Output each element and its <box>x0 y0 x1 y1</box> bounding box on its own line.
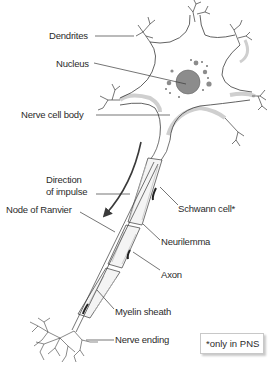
label-schwann-cell: Schwann cell* <box>178 203 235 214</box>
label-dendrites: Dendrites <box>49 30 88 41</box>
label-nerve-ending: Nerve ending <box>115 334 169 345</box>
label-direction-line1: Direction <box>46 174 82 185</box>
label-direction-line2: of impulse <box>46 186 87 197</box>
footnote-box: *only in PNS <box>200 333 264 354</box>
label-node-of-ranvier: Node of Ranvier <box>6 204 72 215</box>
label-neurilemma: Neurilemma <box>161 236 210 247</box>
axon <box>72 135 170 332</box>
nucleus <box>165 59 212 98</box>
label-nerve-cell-body: Nerve cell body <box>21 109 83 120</box>
label-myelin-sheath: Myelin sheath <box>115 306 171 317</box>
label-nucleus: Nucleus <box>56 58 89 69</box>
label-axon: Axon <box>161 269 182 280</box>
neuron-diagram: Dendrites Nucleus Nerve cell body Direct… <box>0 0 275 367</box>
